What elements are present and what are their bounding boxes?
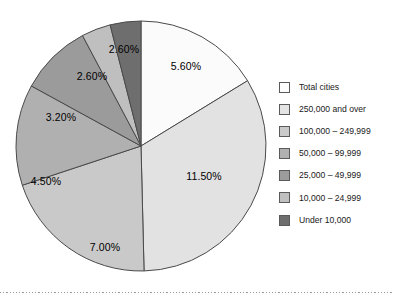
pie-slice-value-label: 5.60% (171, 60, 201, 72)
pie-slice-value-label: 11.50% (186, 170, 221, 182)
pie-slice-value-label: 2.60% (109, 43, 139, 55)
legend-item[interactable]: 25,000 – 49,999 (279, 167, 391, 185)
pie-slices-group (16, 21, 266, 271)
pie-slice-value-label: 7.00% (90, 241, 120, 253)
legend-item-label: 100,000 – 249,999 (299, 127, 371, 136)
pie-slice-value-label: 3.20% (46, 111, 76, 123)
legend-item[interactable]: Under 10,000 (279, 211, 391, 229)
legend-swatch-icon (279, 104, 290, 115)
legend-swatch-icon (279, 192, 290, 203)
legend-item-label: 250,000 and over (299, 105, 366, 114)
pie-chart-svg: 5.60%11.50%7.00%4.50%3.20%2.60%2.60% (8, 12, 276, 284)
pie-slice-value-label: 2.60% (77, 70, 107, 82)
pie-chart-figure: 5.60%11.50%7.00%4.50%3.20%2.60%2.60% Tot… (0, 0, 393, 299)
legend-item[interactable]: 100,000 – 249,999 (279, 122, 391, 140)
legend-swatch-icon (279, 148, 290, 159)
pie-chart-plot-area: 5.60%11.50%7.00%4.50%3.20%2.60%2.60% (8, 12, 276, 284)
legend-swatch-icon (279, 126, 290, 137)
legend-item[interactable]: Total cities (279, 78, 391, 96)
legend-item[interactable]: 10,000 – 24,999 (279, 189, 391, 207)
legend-item-label: 10,000 – 24,999 (299, 194, 361, 203)
legend-item-label: Total cities (299, 83, 339, 92)
pie-slice-value-label: 4.50% (31, 175, 61, 187)
legend-item-label: Under 10,000 (299, 216, 351, 225)
legend-swatch-icon (279, 215, 290, 226)
legend-item[interactable]: 50,000 – 99,999 (279, 145, 391, 163)
legend-item-label: 50,000 – 99,999 (299, 149, 361, 158)
chart-legend: Total cities250,000 and over100,000 – 24… (279, 78, 391, 233)
bottom-dotted-rule (0, 292, 393, 293)
legend-swatch-icon (279, 170, 290, 181)
legend-item-label: 25,000 – 49,999 (299, 171, 361, 180)
legend-swatch-icon (279, 82, 290, 93)
legend-item[interactable]: 250,000 and over (279, 100, 391, 118)
